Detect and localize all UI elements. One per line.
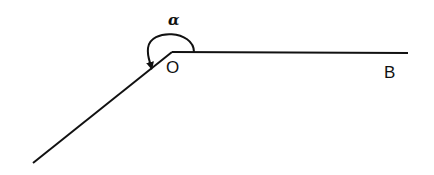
point-label-b: B xyxy=(384,63,395,82)
ray-lower-left xyxy=(33,52,172,163)
vertex-label-o: O xyxy=(166,58,179,77)
angle-diagram: α O B xyxy=(0,0,434,175)
ray-ob xyxy=(172,52,408,53)
angle-label-alpha: α xyxy=(168,11,180,29)
